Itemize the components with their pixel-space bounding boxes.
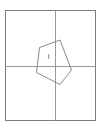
- figure-thumbnail: I: [0, 0, 104, 130]
- region-polygon: [37, 40, 72, 85]
- region-label: I: [47, 52, 49, 61]
- figure-canvas: I: [0, 0, 104, 130]
- map-frame: [6, 11, 96, 121]
